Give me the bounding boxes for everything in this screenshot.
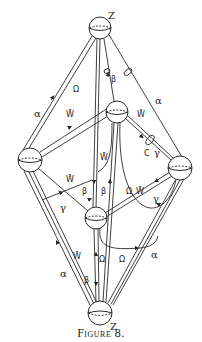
sphere-z-bottom <box>88 301 112 325</box>
nodes <box>18 17 192 325</box>
edge-uppermid-right-b <box>127 115 173 158</box>
sphere-lower-mid <box>85 207 107 229</box>
sphere-left <box>18 148 42 172</box>
label-wbar-center: W̄ <box>100 152 108 162</box>
label-c: C <box>144 149 150 158</box>
ring-alpha <box>123 67 133 77</box>
sphere-upper-mid <box>106 101 128 123</box>
labels: Z Z α α α α β β β β γ γ γ C Ω W̄ W̄ W̄ W… <box>34 10 162 332</box>
label-gamma-left: γ <box>60 202 66 213</box>
label-alpha-top-left: α <box>34 108 41 119</box>
label-beta-mid-right: β <box>101 187 106 196</box>
label-omega-bottom-right: Ω <box>119 255 125 264</box>
label-omega-right-mid: Ω <box>126 187 132 196</box>
figure-caption: Figure 8. <box>0 326 202 341</box>
label-wbar-upper-left: W̄ <box>66 109 74 119</box>
label-beta-bottom: β <box>84 276 89 285</box>
label-gamma-right-lower: γ <box>153 193 159 204</box>
edge-right-zbot-a <box>108 179 176 303</box>
label-gamma-right-upper: γ <box>154 147 160 158</box>
curve-bottom-omega <box>100 228 158 249</box>
label-alpha-bottom-right: α <box>151 249 158 260</box>
curve-wbar-center <box>98 123 112 172</box>
label-wbar-upper-right: W̄ <box>137 109 145 119</box>
label-omega-top: Ω <box>73 85 79 94</box>
label-beta-top: β <box>111 75 116 84</box>
edge-right-zbot-b <box>111 180 180 304</box>
label-wbar-bottom-left: W̄ <box>73 251 81 261</box>
edge-right-zbot-c <box>113 179 184 305</box>
label-wbar-right-mid: W̄ <box>136 186 144 196</box>
edge-ztop-left-a <box>23 36 92 150</box>
edge-left-zbot-a <box>24 171 90 305</box>
edge-lowermid-zbot-a <box>94 229 96 302</box>
label-z-top: Z <box>108 10 115 21</box>
label-alpha-bottom-left: α <box>60 268 67 279</box>
sphere-right <box>168 156 192 180</box>
edge-lowermid-zbot-b <box>98 229 99 302</box>
topology-diagram: Z Z α α α α β β β β γ γ γ C Ω W̄ W̄ W̄ W… <box>0 0 202 342</box>
label-wbar-left-mid: W̄ <box>66 174 74 184</box>
edges <box>23 33 184 305</box>
edge-ztop-uppermid <box>104 39 114 101</box>
edge-ztop-right <box>108 33 182 157</box>
label-omega-bottom-center: Ω <box>99 255 105 264</box>
edge-ztop-left-b <box>29 38 96 148</box>
edge-lowermid-right-b <box>106 176 172 217</box>
label-beta-mid-left: β <box>82 187 87 196</box>
label-alpha-top-right: α <box>155 95 162 106</box>
